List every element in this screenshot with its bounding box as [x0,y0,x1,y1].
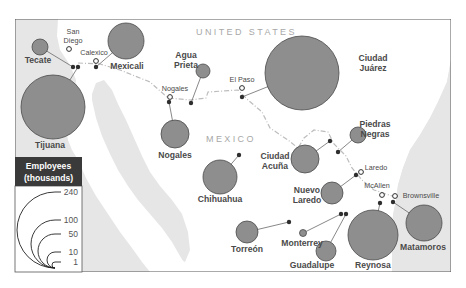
city-label: Guadalupe [290,260,335,270]
city-label: Reynosa [355,260,391,270]
employee-bubble[interactable] [21,75,85,139]
city-label: Juárez [359,63,386,73]
us-city-label: El Paso [230,75,255,84]
city-location-dot [339,212,343,216]
employee-bubble[interactable] [108,23,144,59]
city-label: Mexicali [110,61,143,71]
us-city-label: Calexico [80,48,108,57]
employee-bubble[interactable] [265,36,339,110]
employee-bubble[interactable] [406,205,442,241]
employee-bubble[interactable] [161,120,189,148]
legend-value: 100 [64,215,78,225]
legend-title-line2: (thousands) [15,172,82,184]
country-label: UNITED STATES [196,27,297,37]
city-label: Ciudad [260,151,289,161]
city-location-dot [94,65,98,69]
us-city-label: Diego [64,36,83,45]
us-city-label: San [67,27,80,36]
city-label: Prieta [174,60,198,70]
city-label: Nuevo [294,185,320,195]
city-location-dot [237,153,241,157]
city-location-dot [71,65,75,69]
city-location-dot [76,65,80,69]
city-label: Ciudad [358,53,387,63]
us-city-marker [94,59,99,64]
us-city-marker [393,194,398,199]
city-location-dot [287,220,291,224]
us-city-marker [380,193,385,198]
us-city-label: Brownsville [403,191,439,200]
city-location-dot [167,100,171,104]
city-label: Laredo [293,195,322,205]
legend-title-line1: Employees [15,160,82,172]
legend-value: 50 [69,229,79,239]
legend-value: 240 [64,187,78,197]
city-label: Agua [175,50,197,60]
legend: 24010050101 [15,186,82,272]
us-city-label: Laredo [365,163,387,172]
legend-title: Employees (thousands) [15,157,82,186]
city-location-dot [391,200,395,204]
us-city-marker [359,170,364,175]
map-canvas: UNITED STATESMEXICO SanDiegoCalexicoNoga… [0,0,466,288]
employee-bubble[interactable] [348,210,398,260]
city-location-dot [240,95,244,99]
city-label: Chihuahua [198,194,243,204]
us-city-label: Nogales [162,84,189,93]
city-label: Tecate [25,55,52,65]
legend-value: 1 [73,257,78,267]
country-label: MEXICO [206,134,256,144]
city-location-dot [344,212,348,216]
employee-bubble[interactable] [300,230,307,237]
employee-bubble[interactable] [203,160,237,194]
city-label: Tijuana [35,140,65,150]
city-label: Piedras [359,119,390,129]
employee-bubble[interactable] [321,182,343,204]
city-location-dot [336,150,340,154]
employee-bubble[interactable] [236,221,258,243]
city-location-dot [378,201,382,205]
legend-value: 10 [69,247,79,257]
city-label: Matamoros [400,242,446,252]
city-location-dot [354,173,358,177]
city-label: Monterrey [281,238,323,248]
employee-bubble[interactable] [32,39,48,55]
city-label: Acuña [262,161,288,171]
us-city-marker [168,95,173,100]
city-location-dot [328,139,332,143]
employee-bubble[interactable] [196,64,210,78]
city-label: Torreón [231,244,263,254]
us-city-marker [67,47,72,52]
us-city-label: McAllen [364,181,390,190]
city-label: Negras [360,129,389,139]
city-location-dot [189,101,193,105]
employee-bubble[interactable] [291,145,319,173]
city-label: Nogales [158,150,192,160]
us-city-marker [240,86,245,91]
